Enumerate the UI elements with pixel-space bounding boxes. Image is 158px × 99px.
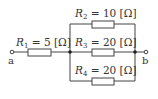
junction-left — [68, 50, 72, 54]
r3-unit: [Ω] — [120, 36, 137, 48]
r1-symbol: R — [16, 36, 24, 48]
r2-equals: = — [91, 7, 100, 19]
r3-subscript: 3 — [83, 42, 87, 50]
label-r2: R2 = 10 [Ω] — [75, 8, 137, 21]
terminal-a — [10, 50, 14, 54]
r3-symbol: R — [75, 36, 83, 48]
r1-subscript: 1 — [24, 42, 28, 50]
resistor-r1 — [28, 49, 51, 56]
r2-subscript: 2 — [83, 13, 87, 21]
label-r4: R4 = 20 [Ω] — [75, 65, 137, 78]
r1-equals: = — [32, 36, 41, 48]
resistor-r2 — [92, 21, 114, 28]
r4-value: 20 — [103, 64, 116, 76]
r4-unit: [Ω] — [120, 64, 137, 76]
r4-equals: = — [91, 64, 100, 76]
r3-equals: = — [91, 36, 100, 48]
r2-value: 10 — [103, 7, 116, 19]
resistor-r3 — [92, 49, 114, 56]
r4-subscript: 4 — [83, 70, 87, 78]
r1-value: 5 — [44, 36, 51, 48]
resistor-r4 — [92, 78, 114, 85]
label-r1: R1 = 5 [Ω] — [16, 37, 71, 50]
label-r3: R3 = 20 [Ω] — [75, 37, 137, 50]
junction-right — [133, 50, 137, 54]
r2-symbol: R — [75, 7, 83, 19]
r2-unit: [Ω] — [120, 7, 137, 19]
r3-value: 20 — [103, 36, 116, 48]
terminal-b — [144, 50, 148, 54]
terminal-a-label: a — [8, 56, 14, 66]
r4-symbol: R — [75, 64, 83, 76]
terminal-b-label: b — [142, 56, 148, 66]
r1-unit: [Ω] — [54, 36, 71, 48]
